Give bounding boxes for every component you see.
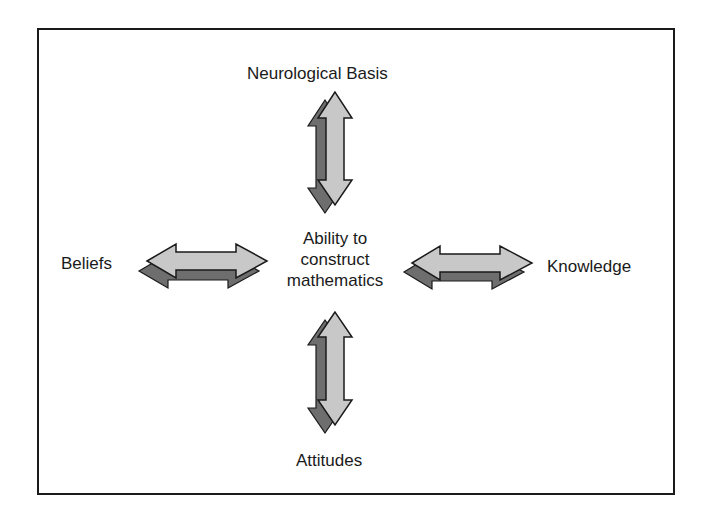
center-line-3: mathematics [270, 270, 400, 291]
node-knowledge: Knowledge [547, 256, 631, 277]
right-double-arrow-icon [404, 246, 532, 289]
center-line-2: construct [270, 249, 400, 270]
node-beliefs: Beliefs [61, 253, 112, 274]
node-neurological-basis: Neurological Basis [247, 63, 388, 84]
center-line-1: Ability to [270, 228, 400, 249]
center-node-ability: Ability to construct mathematics [270, 228, 400, 291]
bottom-double-arrow-icon [308, 312, 352, 433]
top-double-arrow-icon [308, 92, 352, 213]
node-attitudes: Attitudes [296, 450, 362, 471]
left-double-arrow-icon [139, 244, 267, 288]
